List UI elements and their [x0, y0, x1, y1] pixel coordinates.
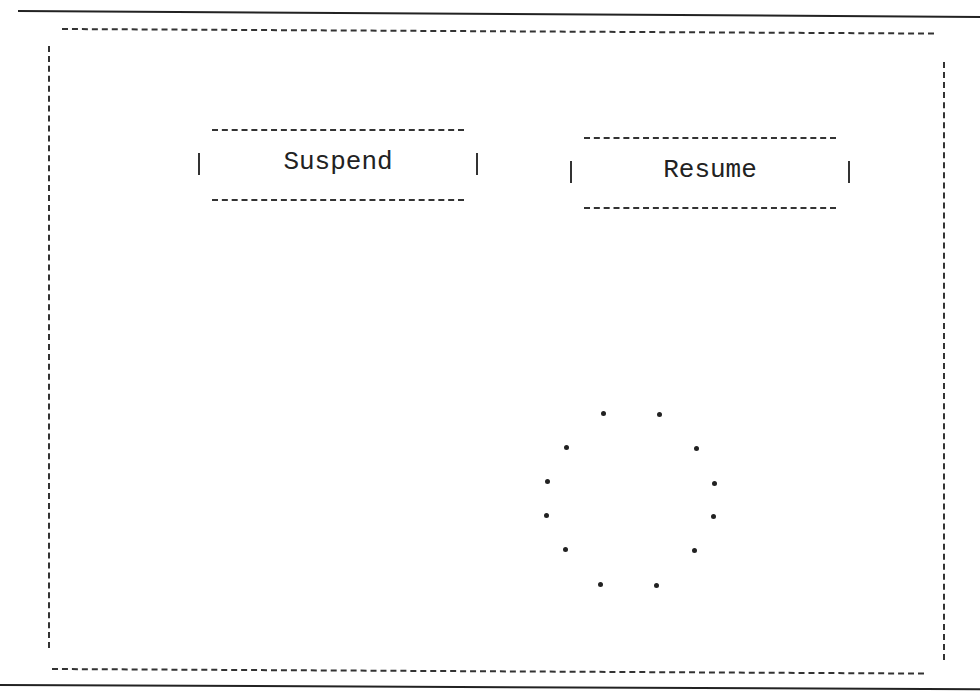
spinner-dot [711, 514, 716, 519]
frame-bottom-border [52, 668, 924, 675]
spinner-dot [544, 513, 549, 518]
frame-left-border [48, 46, 50, 648]
suspend-button-right-edge [476, 153, 478, 175]
resume-button[interactable]: Resume [570, 137, 850, 209]
spinner-dot [694, 446, 699, 451]
spinner-dot [601, 411, 606, 416]
frame-top-border [62, 28, 934, 35]
spinner-dot [654, 583, 659, 588]
spinner-dot [657, 412, 662, 417]
spinner-dot [712, 481, 717, 486]
suspend-button-bottom-border [212, 199, 464, 201]
resume-button-label: Resume [570, 155, 850, 185]
resume-button-bottom-border [584, 207, 836, 209]
spinner-dot [692, 548, 697, 553]
window-frame [40, 28, 945, 670]
spinner-dot [545, 479, 550, 484]
loading-spinner-icon [540, 405, 720, 585]
spinner-dot [564, 445, 569, 450]
spinner-dot [598, 582, 603, 587]
top-rule [18, 10, 980, 18]
suspend-button[interactable]: Suspend [198, 129, 478, 201]
frame-right-border [943, 62, 945, 660]
resume-button-top-border [584, 137, 836, 139]
suspend-button-top-border [212, 129, 464, 131]
spinner-dot [563, 547, 568, 552]
bottom-rule [0, 684, 980, 690]
suspend-button-label: Suspend [198, 147, 478, 177]
resume-button-right-edge [848, 161, 850, 183]
